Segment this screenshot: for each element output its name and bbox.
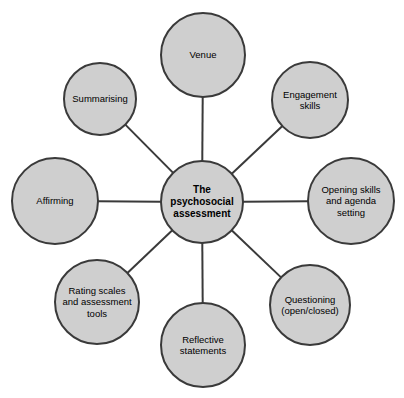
node-opening-skills-and-agenda-setting[interactable]: Opening skills and agenda setting xyxy=(307,157,395,245)
connector-center-to-rating-scales xyxy=(127,230,172,273)
node-affirming-label: Affirming xyxy=(32,195,77,206)
node-summarising-label: Summarising xyxy=(68,93,131,104)
node-center-label: The psychosocial assessment xyxy=(166,184,237,219)
node-reflective-statements[interactable]: Reflective statements xyxy=(160,302,246,388)
node-opening-skills-label: Opening skills and agenda setting xyxy=(317,184,384,218)
node-engagement-skills[interactable]: Engagement skills xyxy=(271,61,349,139)
node-rating-scales-label: Rating scales and assessment tools xyxy=(58,285,135,319)
connector-center-to-questioning xyxy=(232,230,281,277)
node-reflective-statements-label: Reflective statements xyxy=(176,334,230,356)
node-summarising[interactable]: Summarising xyxy=(63,62,137,136)
node-engagement-skills-label: Engagement skills xyxy=(279,89,341,111)
node-questioning-label: Questioning (open/closed) xyxy=(277,294,343,316)
connector-center-to-engagement xyxy=(232,126,283,174)
connector-center-to-summarising xyxy=(125,125,173,173)
node-venue-label: Venue xyxy=(186,49,221,60)
psychosocial-assessment-diagram: The psychosocial assessment Venue Engage… xyxy=(0,0,404,398)
node-center-psychosocial-assessment[interactable]: The psychosocial assessment xyxy=(160,160,244,244)
node-venue[interactable]: Venue xyxy=(160,12,246,98)
node-rating-scales-and-assessment-tools[interactable]: Rating scales and assessment tools xyxy=(54,259,140,345)
node-questioning[interactable]: Questioning (open/closed) xyxy=(269,264,351,346)
node-affirming[interactable]: Affirming xyxy=(11,157,99,245)
